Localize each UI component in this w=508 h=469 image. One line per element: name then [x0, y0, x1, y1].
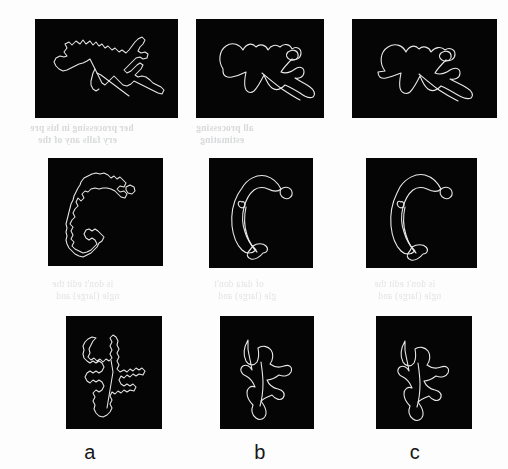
contour-crescent-smooth-notch	[238, 201, 245, 207]
contour-crescent-smooth-c	[391, 175, 441, 254]
showthrough-line-4: estimating	[200, 134, 244, 146]
contour-crescent-smooth-foot	[247, 244, 267, 259]
panel-3b	[220, 316, 314, 429]
contour-branched-smooth-c-loop	[440, 51, 452, 61]
contour-tree-smooth-c	[398, 341, 449, 420]
panel-2c	[366, 158, 477, 268]
contour-branched-rough	[54, 37, 164, 94]
figure-plate: her processing in his pre ery falls any …	[0, 0, 508, 469]
contour-crescent-smooth	[232, 176, 281, 253]
panel-1c	[352, 19, 497, 118]
contour-tree-smooth	[241, 340, 292, 419]
contour-crescent-smooth-head	[280, 187, 292, 198]
panel-1c-canvas	[352, 19, 497, 118]
panel-3c	[376, 316, 472, 429]
column-label-c: c	[395, 442, 435, 462]
showthrough-line-6: ngle (large) and	[56, 290, 119, 302]
contour-crescent-smooth-c-head	[440, 187, 452, 198]
panel-1a-canvas	[35, 19, 178, 118]
panel-2a-canvas	[48, 158, 163, 266]
showthrough-line-5: is don't edit the	[52, 278, 113, 290]
contour-branched-smooth-c	[378, 45, 472, 99]
panel-2a	[48, 158, 163, 266]
contour-crescent-rough	[66, 173, 127, 257]
showthrough-line-8: gle (large) and	[218, 290, 276, 302]
showthrough-line-3: all processing	[196, 122, 254, 134]
panel-3c-canvas	[376, 316, 472, 429]
panel-1a	[35, 19, 178, 118]
contour-crescent-smooth-c-foot	[407, 245, 427, 260]
column-label-a: a	[70, 442, 110, 462]
showthrough-line-1: her processing in his pre	[30, 122, 134, 134]
contour-branched-rough-spur	[91, 69, 99, 91]
panel-1b-canvas	[196, 19, 324, 118]
showthrough-line-2: ery falls any of the	[38, 134, 117, 146]
showthrough-line-9: is don't edit the	[374, 278, 435, 290]
panel-2b-canvas	[209, 158, 313, 268]
showthrough-line-10: ngle (large) and	[378, 290, 441, 302]
contour-branched-smooth	[220, 44, 315, 98]
panel-2c-canvas	[366, 158, 477, 268]
panel-3a	[66, 316, 162, 429]
panel-3a-canvas	[66, 316, 162, 429]
panel-3b-canvas	[220, 316, 314, 429]
panel-1b	[196, 19, 324, 118]
column-label-b: b	[240, 442, 280, 462]
contour-tree-rough	[83, 335, 145, 417]
contour-branched-smooth-arm	[262, 73, 300, 100]
panel-2b	[209, 158, 313, 268]
showthrough-line-7: of data don't	[214, 278, 264, 290]
contour-crescent-rough-head	[126, 185, 135, 194]
contour-crescent-smooth-c-notch	[397, 201, 404, 207]
